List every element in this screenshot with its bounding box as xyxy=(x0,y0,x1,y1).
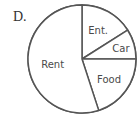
slice-label-ent: Ent. xyxy=(88,25,108,36)
slice-label-food: Food xyxy=(97,74,121,85)
pie-chart: Ent.CarFoodRent xyxy=(0,0,138,116)
slice-label-rent: Rent xyxy=(41,59,64,70)
slice-label-car: Car xyxy=(112,43,130,54)
